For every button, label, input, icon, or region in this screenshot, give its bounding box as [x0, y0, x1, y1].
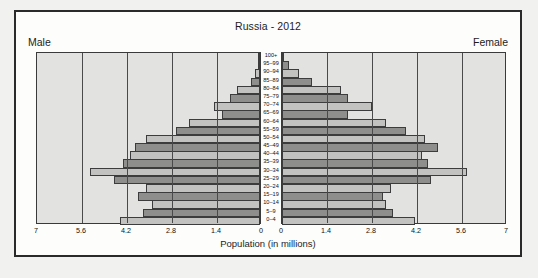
age-group-label: 25–29 — [261, 175, 281, 183]
bar-group-male — [37, 53, 260, 223]
x-tick-label: 1.4 — [314, 226, 338, 235]
age-group-label: 75–79 — [261, 93, 281, 101]
gridline — [462, 53, 463, 223]
age-group-label: 40–44 — [261, 150, 281, 158]
plot-area-female — [281, 52, 506, 224]
gridline — [82, 53, 83, 223]
x-tick-label: 0 — [269, 226, 293, 235]
x-tick-label: 4.2 — [114, 226, 138, 235]
gridline — [217, 53, 218, 223]
age-group-label: 100+ — [261, 52, 281, 60]
x-tick-label: 1.4 — [204, 226, 228, 235]
age-group-label: 55–59 — [261, 126, 281, 134]
x-tick-label: 2.8 — [159, 226, 183, 235]
age-group-label: 85–89 — [261, 77, 281, 85]
chart-title: Russia - 2012 — [16, 20, 520, 32]
bar-female-0_4 — [282, 217, 415, 226]
age-group-axis: 100+95–9990–9485–8980–8475–7970–7465–696… — [261, 52, 281, 224]
age-group-label: 5–9 — [261, 208, 281, 216]
age-group-label: 65–69 — [261, 109, 281, 117]
age-group-label: 80–84 — [261, 85, 281, 93]
x-tick-label: 7 — [494, 226, 518, 235]
x-tick-label: 5.6 — [69, 226, 93, 235]
age-group-label: 60–64 — [261, 118, 281, 126]
plot-area-male — [36, 52, 261, 224]
gridline — [172, 53, 173, 223]
x-tick-label: 2.8 — [359, 226, 383, 235]
age-group-label: 45–49 — [261, 142, 281, 150]
gridline — [127, 53, 128, 223]
x-tick-label: 4.2 — [404, 226, 428, 235]
bar-group-female — [282, 53, 505, 223]
x-tick-label: 5.6 — [449, 226, 473, 235]
x-tick-label: 7 — [24, 226, 48, 235]
figure-canvas: Russia - 2012 Male Female 100+95–9990–94… — [0, 0, 538, 278]
age-group-label: 0–4 — [261, 216, 281, 224]
bar-male-0_4 — [120, 217, 260, 226]
male-side-label: Male — [28, 36, 51, 48]
female-side-label: Female — [473, 36, 508, 48]
age-group-label: 70–74 — [261, 101, 281, 109]
gridline — [372, 53, 373, 223]
gridline — [417, 53, 418, 223]
age-group-label: 15–19 — [261, 191, 281, 199]
x-axis-label: Population (in millions) — [16, 238, 520, 249]
age-group-label: 35–39 — [261, 158, 281, 166]
age-group-label: 50–54 — [261, 134, 281, 142]
age-group-label: 20–24 — [261, 183, 281, 191]
age-group-label: 90–94 — [261, 68, 281, 76]
age-group-label: 30–34 — [261, 167, 281, 175]
age-group-label: 95–99 — [261, 60, 281, 68]
age-group-label: 10–14 — [261, 199, 281, 207]
chart-frame: Russia - 2012 Male Female 100+95–9990–94… — [14, 10, 522, 257]
gridline — [327, 53, 328, 223]
